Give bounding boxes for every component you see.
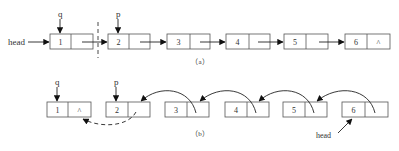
pointer-q-label-a: q: [58, 9, 63, 19]
head-label-a: head: [8, 37, 25, 47]
node-value: 4: [234, 106, 238, 115]
node-value: 5: [293, 38, 297, 47]
node-value: 3: [174, 106, 178, 115]
node-value: 1: [56, 106, 60, 115]
node-b-2: 2: [106, 102, 150, 117]
node-value: 3: [177, 38, 181, 47]
node-b-1: 1 ^: [47, 102, 91, 117]
head-label-b: head: [316, 131, 331, 140]
node-value: 6: [354, 38, 358, 47]
node-value: 6: [352, 106, 356, 115]
node-b-6: 6: [342, 102, 388, 117]
null-pointer: ^: [377, 39, 381, 48]
caption-b: （b）: [191, 130, 209, 138]
pointer-q-label-b: q: [55, 77, 60, 87]
node-value: 1: [59, 38, 63, 47]
part-b: q p 1 ^ 2 3 4: [47, 77, 388, 140]
node-a-4: 4: [226, 34, 270, 49]
node-value: 2: [117, 38, 121, 47]
node-a-2: 2: [108, 34, 150, 49]
node-b-5: 5: [283, 102, 327, 117]
node-value: 2: [115, 106, 119, 115]
part-a: head q p 1 2 3: [8, 9, 390, 66]
pointer-p-label-b: p: [114, 77, 119, 87]
node-b-4: 4: [225, 102, 269, 117]
null-pointer: ^: [78, 107, 82, 116]
node-value: 4: [236, 38, 240, 47]
head-arrow-b: [338, 119, 352, 133]
linked-list-diagram: head q p 1 2 3: [0, 0, 399, 151]
node-a-5: 5: [284, 34, 328, 49]
node-a-3: 3: [167, 34, 210, 49]
node-value: 5: [292, 106, 296, 115]
pointer-p-label-a: p: [116, 9, 121, 19]
caption-a: （a）: [191, 58, 208, 66]
node-a-1: 1: [50, 34, 93, 49]
node-a-6: 6 ^: [345, 34, 390, 49]
node-b-3: 3: [165, 102, 209, 117]
